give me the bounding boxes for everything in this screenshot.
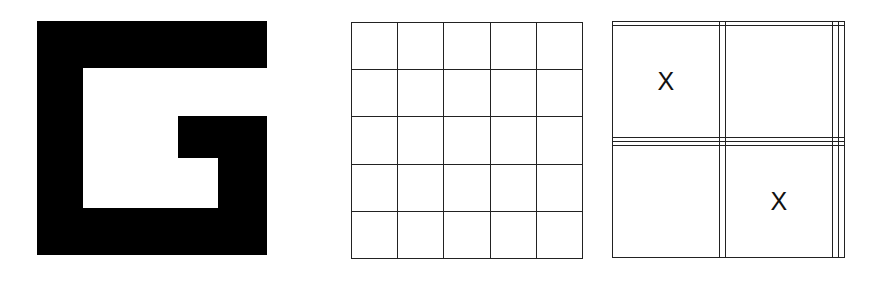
- grid-cell: [444, 211, 490, 258]
- grid-cell: [352, 211, 398, 258]
- grid-cell: [725, 25, 832, 137]
- grid-cell: [490, 164, 536, 211]
- grid-cell: [536, 70, 582, 117]
- grid-cell: [444, 117, 490, 164]
- grid-cell: [536, 211, 582, 258]
- grid-cell: [444, 23, 490, 70]
- grid-cell: [352, 164, 398, 211]
- grid-row: [352, 23, 583, 70]
- grid-row: [352, 117, 583, 164]
- grid-cell: [490, 23, 536, 70]
- grid-row: [352, 211, 583, 258]
- grid-cell: X: [725, 145, 832, 257]
- g-shape-path: [37, 21, 267, 255]
- grid-cell: [838, 145, 844, 257]
- grid-cell: [536, 23, 582, 70]
- grid-cell: [398, 164, 444, 211]
- grid-cell: [398, 23, 444, 70]
- grid-cell: [398, 70, 444, 117]
- grid-row: [352, 164, 583, 211]
- grid-cell: [398, 117, 444, 164]
- grid-cell: [490, 117, 536, 164]
- grid-cell: [398, 211, 444, 258]
- empty-grid: [351, 22, 583, 259]
- grid-cell: [352, 70, 398, 117]
- grid-cell: [444, 164, 490, 211]
- g-shape-figure: [37, 21, 267, 255]
- grid-cell: [613, 145, 720, 257]
- grid-cell: [352, 117, 398, 164]
- grid-row: X: [613, 145, 845, 257]
- marked-grid: XX: [612, 21, 845, 258]
- grid-cell: [536, 164, 582, 211]
- grid-cell: X: [613, 25, 720, 137]
- grid-cell: [838, 25, 844, 137]
- grid-cell: [490, 211, 536, 258]
- grid-row: [352, 70, 583, 117]
- grid-cell: [490, 70, 536, 117]
- grid-cell: [352, 23, 398, 70]
- grid-cell: [444, 70, 490, 117]
- grid-cell: [536, 117, 582, 164]
- grid-row: X: [613, 25, 845, 137]
